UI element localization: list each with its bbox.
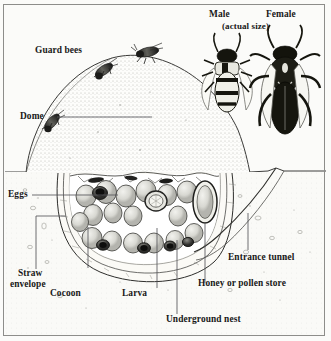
female-bee-specimen (250, 25, 320, 134)
label-female: Female (266, 9, 296, 20)
label-underground-nest: Underground nest (166, 314, 241, 325)
label-dome: Dome (20, 111, 44, 122)
label-cocoon: Cocoon (50, 288, 81, 299)
label-guard-bees: Guard bees (35, 45, 82, 56)
label-actual-size: (actual size) (222, 21, 269, 32)
label-larva: Larva (122, 288, 147, 299)
label-honey-or-pollen-store: Honey or pollen store (198, 278, 286, 289)
label-male: Male (209, 9, 230, 20)
label-straw-envelope-line1: Straw (18, 268, 42, 279)
figure-canvas: Guard bees Dome Eggs Straw envelope Coco… (0, 0, 331, 341)
male-bee-specimen (202, 33, 253, 112)
label-straw-envelope-line2: envelope (10, 279, 46, 290)
label-entrance-tunnel: Entrance tunnel (228, 252, 294, 263)
label-eggs: Eggs (8, 189, 28, 200)
